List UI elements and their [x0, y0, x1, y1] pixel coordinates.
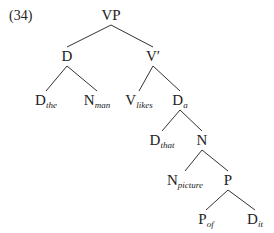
tree-edge: [46, 66, 67, 91]
tree-edge: [206, 190, 228, 210]
node-n: N: [197, 133, 208, 148]
node-d: D: [62, 49, 73, 64]
node-n-picture: Npicture: [167, 173, 203, 188]
node-p: P: [224, 173, 232, 188]
node-n-man: Nman: [84, 93, 110, 108]
node-v-likes: Vlikes: [125, 93, 152, 108]
tree-edge: [202, 150, 228, 171]
tree-edge: [180, 110, 202, 131]
node-d-it: Dit: [247, 212, 263, 227]
tree-edge: [67, 66, 97, 91]
node-d-that: Dthat: [150, 133, 175, 148]
tree-edge: [153, 66, 180, 91]
tree-edges: [0, 0, 274, 233]
node-vp: VP: [101, 8, 120, 23]
tree-edge: [162, 110, 180, 131]
node-d-the: Dthe: [35, 93, 57, 108]
tree-edge: [185, 150, 202, 171]
tree-edge: [67, 25, 111, 47]
tree-edge: [111, 25, 153, 47]
node-p-of: Pof: [198, 212, 213, 227]
tree-edge: [228, 190, 255, 210]
node-d-a: Da: [172, 93, 187, 108]
node-v-bar: V′: [146, 49, 160, 64]
tree-edge: [139, 66, 153, 91]
